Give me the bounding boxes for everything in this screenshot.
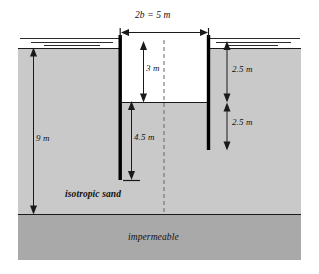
arrowhead-width-right [200, 29, 208, 36]
sheet-pile-right [207, 35, 210, 150]
label-right-upper: 2.5 m [232, 65, 253, 74]
label-base-layer: impermeable [128, 233, 179, 243]
water-table-right [208, 39, 300, 46]
sand-right [208, 48, 301, 214]
arrowhead-width-left [121, 29, 129, 36]
label-right-lower: 2.5 m [232, 118, 253, 127]
sheet-pile-left [119, 35, 122, 180]
water-table-left [20, 39, 121, 46]
label-excavation-depth: 3 m [146, 64, 160, 73]
label-soil-layer: isotropic sand [65, 190, 121, 200]
dimension-width [120, 28, 208, 38]
label-cofferdam-width: 2b = 5 m [135, 11, 170, 21]
label-embedment-left: 4.5 m [134, 133, 155, 142]
arrowhead-3m-top [140, 41, 147, 50]
label-total-depth: 9 m [36, 134, 50, 143]
